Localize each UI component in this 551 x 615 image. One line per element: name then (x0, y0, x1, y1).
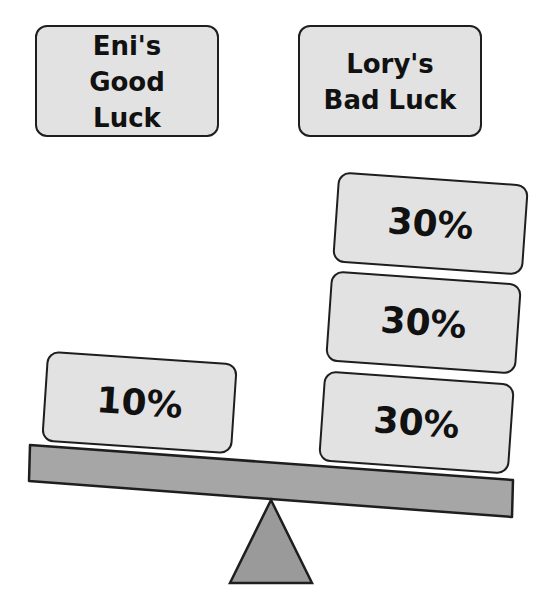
weight-right-middle: 30% (325, 270, 522, 374)
weight-value: 10% (95, 379, 184, 426)
weight-left-10: 10% (41, 351, 238, 454)
weight-value: 30% (379, 299, 468, 346)
weight-value: 30% (386, 200, 475, 247)
weight-right-bottom: 30% (318, 370, 515, 474)
weight-right-top: 30% (332, 171, 529, 275)
weight-value: 30% (372, 399, 461, 446)
fulcrum-triangle (230, 500, 312, 583)
